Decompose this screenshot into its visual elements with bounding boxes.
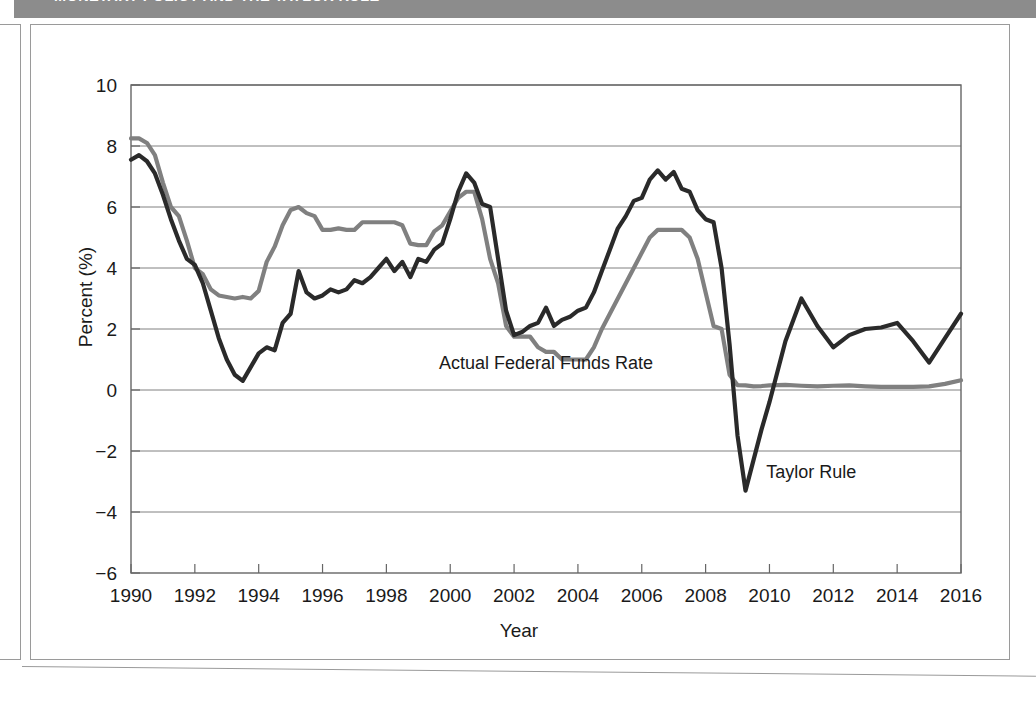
y-tick-label: 8 <box>106 136 117 157</box>
x-axis-label: Year <box>30 620 1008 642</box>
x-tick-label: 2016 <box>940 585 982 606</box>
y-tick-label: 2 <box>106 319 117 340</box>
y-tick-label: 4 <box>106 258 117 279</box>
y-tick-label: 10 <box>96 75 117 96</box>
y-tick-label: −2 <box>95 441 117 462</box>
page-bottom-rule <box>22 666 1036 677</box>
x-tick-label: 2010 <box>748 585 790 606</box>
y-tick-label: 0 <box>106 380 117 401</box>
x-tick-label: 1996 <box>301 585 343 606</box>
series-annotation: Taylor Rule <box>766 462 856 482</box>
y-axis-label: Percent (%) <box>75 227 97 367</box>
x-tick-label: 1992 <box>174 585 216 606</box>
chart-container: −6−4−20246810199019921994199619982000200… <box>30 24 1008 658</box>
x-tick-label: 2000 <box>429 585 471 606</box>
x-tick-label: 2012 <box>812 585 854 606</box>
series-line <box>131 138 961 387</box>
y-tick-label: −4 <box>95 502 117 523</box>
series-annotation: Actual Federal Funds Rate <box>439 353 653 373</box>
x-tick-label: 2014 <box>876 585 919 606</box>
x-tick-label: 1994 <box>238 585 281 606</box>
line-chart: −6−4−20246810199019921994199619982000200… <box>30 24 1008 658</box>
y-tick-label: 6 <box>106 197 117 218</box>
x-tick-label: 2002 <box>493 585 535 606</box>
x-tick-label: 1998 <box>365 585 407 606</box>
x-tick-label: 2008 <box>684 585 726 606</box>
y-tick-label: −6 <box>95 563 117 584</box>
section-banner-title: MONETARY POLICY AND THE TAYLOR RULE <box>54 0 380 4</box>
figure-page: MONETARY POLICY AND THE TAYLOR RULE −6−4… <box>0 0 1036 722</box>
series-line <box>131 155 961 491</box>
x-tick-label: 2006 <box>621 585 663 606</box>
outer-page-frame <box>0 24 21 660</box>
section-banner: MONETARY POLICY AND THE TAYLOR RULE <box>14 0 1036 18</box>
x-tick-label: 2004 <box>557 585 600 606</box>
x-tick-label: 1990 <box>110 585 152 606</box>
